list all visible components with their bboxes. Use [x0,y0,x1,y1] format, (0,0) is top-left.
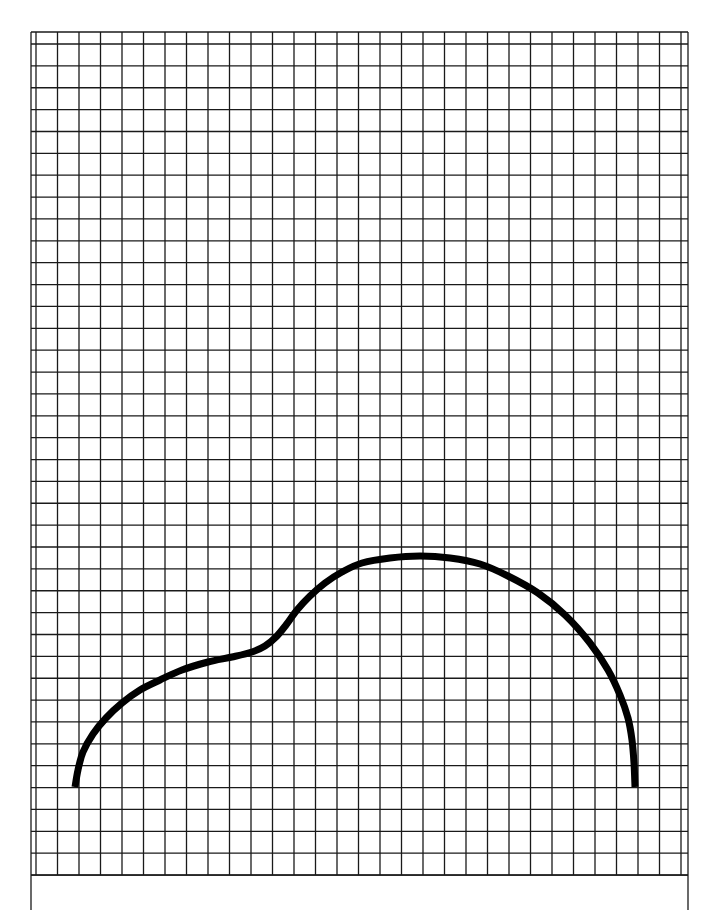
grid-lines [31,32,688,875]
graph-paper-figure [0,0,722,910]
grid-border [31,32,688,910]
